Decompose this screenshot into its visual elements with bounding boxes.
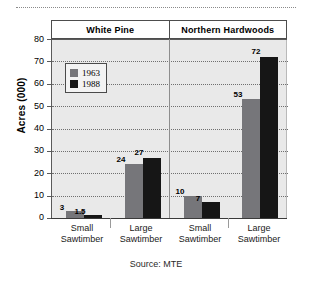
bar-white-pine-large-1963 bbox=[125, 164, 143, 218]
bar-northern-hardwoods-small-1988 bbox=[202, 202, 220, 218]
bar-northern-hardwoods-large-1988 bbox=[260, 57, 278, 218]
ytick-mark-0 bbox=[47, 218, 51, 219]
category-label-line2: Sawtimber bbox=[229, 234, 289, 245]
source-note: Source: MTE bbox=[0, 259, 312, 269]
legend-item-1963: 1963 bbox=[70, 67, 100, 78]
ytick-label-20: 20 bbox=[14, 168, 44, 178]
chart-legend: 1963 1988 bbox=[65, 63, 107, 93]
bar-northern-hardwoods-large-1963 bbox=[242, 99, 260, 218]
bar-white-pine-large-1988 bbox=[143, 158, 161, 218]
legend-item-1988: 1988 bbox=[70, 78, 100, 89]
ytick-mark-60 bbox=[47, 84, 51, 85]
category-label-white-pine-small: Small Sawtimber bbox=[52, 223, 112, 245]
ytick-label-0: 0 bbox=[14, 212, 44, 222]
category-label-northern-hardwoods-large: Large Sawtimber bbox=[229, 223, 289, 245]
category-label-line2: Sawtimber bbox=[111, 234, 171, 245]
category-label-white-pine-large: Large Sawtimber bbox=[111, 223, 171, 245]
group-title-northern-hardwoods: Northern Hardwoods bbox=[169, 21, 287, 38]
plot-baseline bbox=[51, 218, 287, 219]
y-axis-title: Acres (000) bbox=[16, 51, 27, 161]
value-label-northern-hardwoods-small-1963: 10 bbox=[171, 187, 189, 196]
value-label-northern-hardwoods-large-1988: 72 bbox=[247, 47, 265, 56]
ytick-mark-80 bbox=[47, 39, 51, 40]
top-divider-rule bbox=[16, 7, 296, 8]
ytick-mark-10 bbox=[47, 196, 51, 197]
legend-label-1963: 1963 bbox=[82, 68, 100, 78]
ytick-mark-20 bbox=[47, 173, 51, 174]
value-label-white-pine-large-1963: 24 bbox=[112, 155, 130, 164]
category-label-line1: Small bbox=[170, 223, 230, 234]
category-label-line2: Sawtimber bbox=[170, 234, 230, 245]
category-label-line1: Large bbox=[111, 223, 171, 234]
ytick-mark-50 bbox=[47, 106, 51, 107]
ytick-mark-40 bbox=[47, 129, 51, 130]
ytick-mark-30 bbox=[47, 151, 51, 152]
category-label-line2: Sawtimber bbox=[52, 234, 112, 245]
legend-swatch-1988 bbox=[70, 80, 78, 88]
legend-swatch-1963 bbox=[70, 69, 78, 77]
value-label-white-pine-small-1988: 1.5 bbox=[70, 207, 90, 216]
value-label-northern-hardwoods-small-1988: 7 bbox=[189, 194, 207, 203]
category-label-line1: Large bbox=[229, 223, 289, 234]
group-title-white-pine: White Pine bbox=[52, 21, 169, 38]
legend-label-1988: 1988 bbox=[82, 79, 100, 89]
value-label-white-pine-small-1963: 3 bbox=[53, 203, 71, 212]
group-divider-line bbox=[169, 39, 170, 218]
ytick-mark-70 bbox=[47, 61, 51, 62]
group-header-band: White Pine Northern Hardwoods bbox=[51, 20, 287, 39]
bar-chart-figure: White Pine Northern Hardwoods 80 70 60 5… bbox=[0, 0, 312, 282]
category-label-northern-hardwoods-small: Small Sawtimber bbox=[170, 223, 230, 245]
value-label-northern-hardwoods-large-1963: 53 bbox=[229, 90, 247, 99]
ytick-label-80: 80 bbox=[14, 34, 44, 44]
value-label-white-pine-large-1988: 27 bbox=[130, 148, 148, 157]
category-label-line1: Small bbox=[52, 223, 112, 234]
ytick-label-10: 10 bbox=[14, 190, 44, 200]
